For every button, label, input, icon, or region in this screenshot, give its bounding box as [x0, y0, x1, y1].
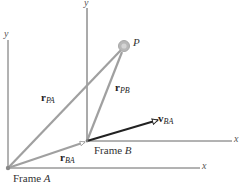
frame-a-y-axis-label: y: [4, 29, 8, 39]
point-p-marker: [119, 41, 130, 52]
vector-r-pb: [87, 52, 122, 141]
vector-v-ba-label: vBA: [158, 113, 173, 126]
frame-a-label-letter: A: [44, 172, 51, 183]
frame-b-origin-dot: [86, 140, 89, 143]
vector-v-ba-subscript: BA: [164, 117, 174, 126]
vector-r-ba-subscript: BA: [65, 156, 75, 165]
frame-b-label: Frame B: [94, 145, 132, 156]
vector-r-pa-label: rPA: [41, 92, 55, 105]
frame-b-label-letter: B: [125, 144, 132, 156]
vector-r-pb-label: rPB: [115, 82, 130, 95]
vector-r-pb-subscript: PB: [120, 86, 130, 95]
vector-r-pa-subscript: PA: [46, 96, 55, 105]
frame-b-y-axis-label: y: [84, 0, 88, 8]
frame-a-label: Frame A: [13, 173, 51, 183]
frame-a-x-axis-label: x: [202, 161, 206, 171]
vector-r-ba-label: rBA: [60, 152, 75, 165]
frame-a-origin-dot: [6, 166, 10, 170]
frame-a-label-text: Frame: [13, 172, 41, 183]
point-p-label: P: [133, 37, 140, 48]
frame-b-label-text: Frame: [94, 144, 122, 156]
vector-v-ba: [87, 120, 158, 141]
frame-b-x-axis-label: x: [234, 134, 238, 144]
